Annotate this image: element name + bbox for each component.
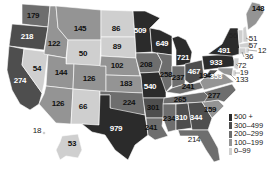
label-id: 122 xyxy=(48,40,60,48)
label-hi: 18 xyxy=(33,127,41,135)
label-la: 241 xyxy=(145,124,157,132)
label-ma: 57 xyxy=(249,42,257,50)
label-tx: 979 xyxy=(110,125,122,133)
label-ks: 183 xyxy=(120,80,132,88)
state-hi xyxy=(43,132,46,135)
label-ut: 144 xyxy=(55,69,67,77)
label-vt: 56 xyxy=(229,32,237,40)
label-fl: 214 xyxy=(188,136,200,144)
legend-swatch xyxy=(229,131,232,138)
map-legend: 500 + 300–499 200–299 100–199 0–99 xyxy=(229,113,263,156)
label-ri: 12 xyxy=(258,47,266,55)
label-nd: 86 xyxy=(112,25,120,33)
label-mn: 509 xyxy=(134,27,146,35)
legend-swatch xyxy=(229,139,232,146)
label-az: 126 xyxy=(52,100,64,108)
state-nh xyxy=(243,26,248,42)
label-ga: 344 xyxy=(190,114,202,122)
legend-item-0-99: 0–99 xyxy=(229,147,263,156)
label-co: 126 xyxy=(83,75,95,83)
label-wi: 649 xyxy=(156,40,168,48)
label-wv: 353 xyxy=(210,73,222,81)
label-sd: 89 xyxy=(113,43,121,51)
label-ar: 301 xyxy=(147,104,159,112)
label-ky: 241 xyxy=(182,83,194,91)
label-wa: 179 xyxy=(27,12,39,20)
label-ms: 234 xyxy=(163,115,175,123)
label-md: 133 xyxy=(236,76,248,84)
state-vt xyxy=(238,30,243,44)
label-pa: 933 xyxy=(210,59,222,67)
label-mi: 721 xyxy=(177,54,189,62)
label-in: 237 xyxy=(172,74,184,82)
legend-swatch xyxy=(229,148,232,155)
label-ia: 208 xyxy=(140,61,152,69)
label-ak: 53 xyxy=(68,140,76,148)
label-nm: 66 xyxy=(79,103,87,111)
label-nc: 277 xyxy=(208,92,220,100)
legend-swatch xyxy=(229,122,232,129)
label-ok: 224 xyxy=(123,99,135,107)
label-wy: 50 xyxy=(79,50,87,58)
label-al: 310 xyxy=(175,114,187,122)
label-ne: 102 xyxy=(111,62,123,70)
label-me: 148 xyxy=(252,5,264,13)
label-ny: 491 xyxy=(218,47,230,55)
label-or: 218 xyxy=(21,33,33,41)
label-nv: 54 xyxy=(33,65,41,73)
label-mt: 145 xyxy=(74,25,86,33)
label-ca: 274 xyxy=(14,77,26,85)
label-il: 258 xyxy=(160,71,172,79)
legend-swatch xyxy=(229,114,232,121)
label-ct: 36 xyxy=(245,53,253,61)
label-mo: 540 xyxy=(144,83,156,91)
label-sc: 159 xyxy=(204,106,216,114)
legend-label: 0–99 xyxy=(234,147,251,155)
label-tn: 265 xyxy=(174,96,186,104)
